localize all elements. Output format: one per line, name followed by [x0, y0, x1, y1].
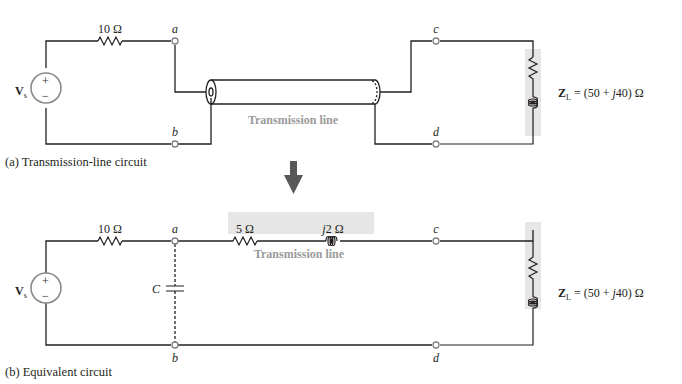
node-d-label-b: d: [433, 351, 440, 365]
circuit-b: + − Vs C Transmission line 10 Ω a b c d …: [5, 212, 644, 379]
caption-b: (b) Equivalent circuit: [5, 365, 112, 379]
node-b-label-b: b: [172, 351, 178, 365]
terminal-b-b: [172, 342, 178, 348]
source-plus-a: +: [42, 74, 49, 88]
wire-a-top-left: [46, 41, 98, 68]
source-minus-a: −: [42, 89, 49, 103]
wire-b-bottom-left: [46, 303, 171, 345]
wire-c-to-load-b: [440, 230, 533, 241]
wire-a-bottom-left: [46, 108, 171, 144]
resistor-5-ohm: [233, 237, 257, 245]
inductor-j2-label: j2 Ω: [320, 222, 343, 236]
source-label-a: Vs: [15, 84, 27, 100]
load-inductor-b: [440, 297, 538, 345]
source-minus-b: −: [42, 289, 49, 303]
terminal-d-b: [433, 342, 439, 348]
node-a-label: a: [172, 22, 178, 36]
down-arrow-icon: [284, 161, 303, 194]
coax-center-conductor: [209, 88, 213, 96]
terminal-c: [433, 38, 439, 44]
wire-a-to-coax: [175, 45, 206, 92]
circuit-a: + − Vs Transmission line 10 Ω a b c d: [5, 22, 644, 169]
resistor-label-a: 10 Ω: [98, 22, 122, 36]
resistor-10-ohm-a: [98, 37, 122, 45]
coax-right-end-hidden: [372, 81, 377, 103]
wire-coax-to-d: [375, 104, 432, 144]
node-c-label: c: [433, 22, 439, 36]
capacitor-label: C: [152, 282, 161, 296]
source-label-b: Vs: [15, 284, 27, 300]
inductor-j2-ohm: [326, 237, 337, 246]
wire-b-to-coax: [175, 98, 211, 144]
node-a-label-b: a: [172, 222, 178, 236]
capacitor: [166, 286, 184, 291]
source-plus-b: +: [42, 274, 49, 288]
resistor-label-b: 10 Ω: [98, 222, 122, 236]
load-inductor-a: [440, 97, 538, 144]
load-label-a: ZL = (50 + j40) Ω: [558, 86, 644, 102]
resistor-5-ohm-label: 5 Ω: [236, 222, 254, 236]
terminal-a: [172, 38, 178, 44]
tline-label-b: Transmission line: [254, 247, 345, 261]
node-b-label: b: [172, 125, 178, 139]
wire-b-top-left: [46, 241, 98, 273]
terminal-b: [172, 141, 178, 147]
tline-label-a: Transmission line: [248, 113, 339, 127]
terminal-a-b: [172, 238, 178, 244]
node-c-label-b: c: [433, 222, 439, 236]
caption-a: (a) Transmission-line circuit: [5, 155, 147, 169]
resistor-10-ohm-b: [98, 237, 122, 245]
circuit-diagram: + − Vs Transmission line 10 Ω a b c d: [0, 0, 682, 384]
wire-c-to-load: [440, 41, 533, 57]
terminal-d: [433, 141, 439, 147]
load-label-b: ZL = (50 + j40) Ω: [558, 286, 644, 302]
node-d-label: d: [433, 125, 440, 139]
terminal-c-b: [433, 238, 439, 244]
wire-coax-to-c: [380, 41, 432, 92]
